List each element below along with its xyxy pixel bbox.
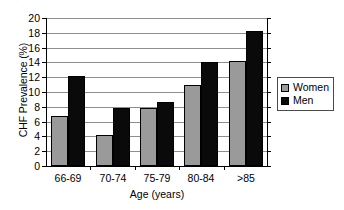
bar-women->85 — [229, 61, 246, 166]
y-axis-tick — [42, 92, 46, 93]
x-axis-label-80-84: 80-84 — [188, 172, 215, 184]
y-axis-tick-right — [267, 92, 271, 93]
x-axis-tick — [179, 166, 180, 170]
y-axis-tick-label: 20 — [28, 13, 40, 24]
y-axis-tick — [42, 166, 46, 167]
y-axis-tick — [42, 48, 46, 49]
y-axis-tick — [42, 62, 46, 63]
y-axis-tick-right — [267, 33, 271, 34]
y-axis-tick-right — [267, 151, 271, 152]
legend-swatch-women-icon — [281, 84, 289, 92]
x-axis-label-66-69: 66-69 — [55, 172, 82, 184]
x-axis-title: Age (years) — [46, 188, 268, 200]
bar-women-70-74 — [96, 135, 113, 166]
y-axis-tick-right — [267, 77, 271, 78]
x-axis-tick — [90, 166, 91, 170]
legend-item-women: Women — [281, 81, 329, 94]
x-axis-tick — [135, 166, 136, 170]
y-axis-tick — [42, 18, 46, 19]
y-axis-tick-label: 6 — [34, 117, 40, 128]
bar-women-66-69 — [51, 116, 68, 166]
y-axis-tick-label: 16 — [28, 43, 40, 54]
legend-label-men: Men — [293, 95, 313, 106]
y-axis-tick-right — [267, 18, 271, 19]
legend-label-women: Women — [293, 82, 329, 93]
gridline — [47, 18, 267, 19]
gridline — [47, 48, 267, 49]
y-axis-tick-label: 0 — [34, 161, 40, 172]
y-axis-tick-right — [267, 107, 271, 108]
y-axis-tick-label: 14 — [28, 57, 40, 68]
legend: Women Men — [277, 77, 334, 111]
y-axis-tick — [42, 122, 46, 123]
y-axis-tick-label: 4 — [34, 131, 40, 142]
gridline — [47, 33, 267, 34]
y-axis-tick — [42, 151, 46, 152]
x-axis-label-75-79: 75-79 — [144, 172, 171, 184]
chf-prevalence-bar-chart: CHF Prevalence (%) 02468101214161820 66-… — [0, 0, 344, 210]
x-axis-line — [46, 166, 268, 167]
y-axis-tick-right — [267, 122, 271, 123]
x-axis-tick — [224, 166, 225, 170]
bar-men-70-74 — [113, 108, 130, 166]
y-axis-tick — [42, 107, 46, 108]
bar-men->85 — [246, 31, 263, 166]
y-axis-tick-right — [267, 62, 271, 63]
bar-men-75-79 — [157, 102, 174, 166]
bar-women-80-84 — [184, 85, 201, 166]
y-axis-tick-label: 2 — [34, 146, 40, 157]
x-axis-label->85: >85 — [237, 172, 255, 184]
y-axis-title: CHF Prevalence (%) — [17, 15, 29, 165]
plot-area: 02468101214161820 66-6970-7475-7980-84>8… — [46, 18, 268, 166]
legend-swatch-men-icon — [281, 97, 289, 105]
y-axis-tick-label: 8 — [34, 102, 40, 113]
y-axis-tick-right — [267, 48, 271, 49]
y-axis-tick — [42, 33, 46, 34]
x-axis-label-70-74: 70-74 — [100, 172, 127, 184]
y-axis-tick-label: 12 — [28, 72, 40, 83]
y-axis-tick-label: 18 — [28, 28, 40, 39]
y-axis-tick-right — [267, 166, 271, 167]
bar-men-66-69 — [68, 76, 85, 166]
y-axis-tick-right — [267, 136, 271, 137]
y-axis-tick — [42, 77, 46, 78]
bar-women-75-79 — [140, 108, 157, 166]
y-axis-tick — [42, 136, 46, 137]
legend-item-men: Men — [281, 94, 329, 107]
bar-men-80-84 — [201, 62, 218, 166]
y-axis-tick-label: 10 — [28, 87, 40, 98]
